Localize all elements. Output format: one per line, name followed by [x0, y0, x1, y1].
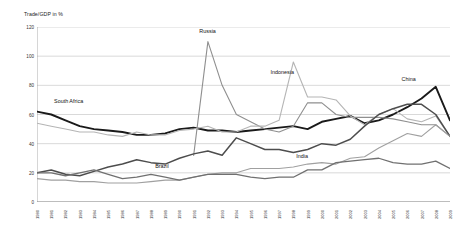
x-tick-label: 2002	[348, 210, 353, 219]
x-tick-label: 1986	[120, 210, 125, 219]
x-tick-label: 2009	[448, 210, 453, 219]
x-tick-label: 1984	[91, 210, 96, 219]
x-tick-label: 1988	[148, 210, 153, 219]
x-axis-tick-labels: 1980198119821983198419851986198719881989…	[37, 205, 450, 221]
y-tick-label: 80	[29, 83, 34, 88]
x-tick-label: 1990	[177, 210, 182, 219]
series-label-russia: Russia	[199, 28, 215, 34]
x-tick-label: 2005	[391, 210, 396, 219]
x-tick-label: 2007	[419, 210, 424, 219]
x-tick-label: 1985	[106, 210, 111, 219]
y-axis-title: Trade/GDP in %	[24, 11, 63, 17]
line-chart-svg	[37, 27, 450, 202]
series-label-brazil: Brazil	[155, 163, 168, 169]
x-tick-label: 1980	[35, 210, 40, 219]
x-tick-label: 1994	[234, 210, 239, 219]
x-tick-label: 2001	[334, 210, 339, 219]
series-label-china: China	[402, 76, 416, 82]
x-tick-label: 1991	[191, 210, 196, 219]
y-tick-label: 0	[31, 200, 34, 205]
chart-container: Trade/GDP in % 120100806040200 198019811…	[0, 0, 467, 228]
x-tick-label: 2003	[362, 210, 367, 219]
y-tick-label: 40	[29, 141, 34, 146]
x-tick-label: 1995	[248, 210, 253, 219]
x-tick-label: 2000	[319, 210, 324, 219]
x-tick-label: 1992	[205, 210, 210, 219]
x-tick-label: 1997	[277, 210, 282, 219]
series-line-indonesia	[37, 62, 450, 136]
x-tick-label: 1998	[291, 210, 296, 219]
x-tick-label: 1987	[134, 210, 139, 219]
y-tick-label: 60	[29, 112, 34, 117]
x-tick-label: 1999	[305, 210, 310, 219]
x-tick-label: 1989	[163, 210, 168, 219]
x-tick-label: 2008	[433, 210, 438, 219]
x-tick-label: 1981	[49, 210, 54, 219]
x-tick-label: 2006	[405, 210, 410, 219]
series-line-russia	[194, 42, 450, 156]
x-tick-label: 1983	[77, 210, 82, 219]
y-tick-label: 20	[29, 170, 34, 175]
series-label-indonesia: Indonesia	[271, 69, 294, 75]
y-axis-tick-labels: 120100806040200	[18, 27, 34, 202]
x-tick-label: 2004	[376, 210, 381, 219]
x-tick-label: 1993	[220, 210, 225, 219]
plot-area	[37, 27, 450, 202]
series-label-south-africa: South Africa	[54, 98, 83, 104]
y-tick-label: 100	[26, 54, 34, 59]
x-tick-label: 1982	[63, 210, 68, 219]
x-tick-label: 1996	[262, 210, 267, 219]
series-label-india: India	[296, 153, 308, 159]
series-line-china	[37, 104, 450, 175]
y-tick-label: 120	[26, 25, 34, 30]
